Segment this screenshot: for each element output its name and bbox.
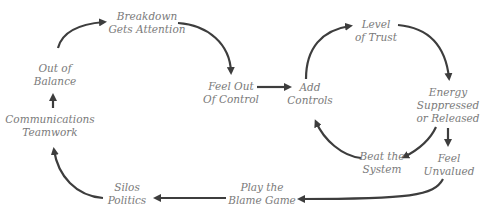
arrow-silos-politics-to-communications-teamwork [54, 150, 103, 198]
node-label-line: Politics [108, 194, 147, 207]
arrow-feel-unvalued-to-play-the-blame-game [300, 179, 443, 199]
node-out-of-balance: Out of Balance [34, 62, 76, 88]
node-play-the-blame-game: Play the Blame Game [228, 181, 296, 207]
node-label-line: Gets Attention [108, 23, 185, 36]
node-label-line: Out of [34, 62, 76, 75]
arrow-out-of-balance-to-breakdown [58, 22, 104, 48]
node-beat-the-system: Beat the System [360, 150, 405, 176]
arrow-beat-the-system-to-add-controls [316, 122, 361, 158]
arrow-add-controls-to-level-of-trust [306, 26, 350, 79]
feedback-loop-diagram: Breakdown Gets Attention Feel Out Of Con… [0, 0, 496, 215]
node-label-line: Unvalued [424, 165, 475, 178]
node-label-line: of Trust [355, 31, 397, 44]
node-add-controls: Add Controls [287, 81, 332, 107]
node-label-line: Breakdown [108, 10, 185, 23]
node-label-line: Suppressed [417, 99, 480, 112]
node-label-line: System [360, 163, 405, 176]
node-label-line: Blame Game [228, 194, 296, 207]
node-label-line: Balance [34, 75, 76, 88]
arrow-level-of-trust-to-energy [398, 25, 449, 78]
node-feel-out-of-control: Feel Out Of Control [203, 80, 259, 106]
node-label-line: Of Control [203, 93, 259, 106]
node-label-line: Feel [424, 152, 475, 165]
node-communications-teamwork: Communications Teamwork [5, 113, 94, 139]
arrow-breakdown-to-feel-out-of-control [178, 23, 231, 72]
node-energy-suppressed-or-released: Energy Suppressed or Released [417, 86, 480, 125]
node-silos-politics: Silos Politics [108, 181, 147, 207]
node-label-line: or Released [417, 112, 480, 125]
node-label-line: Controls [287, 94, 332, 107]
node-level-of-trust: Level of Trust [355, 18, 397, 44]
node-label-line: Feel Out [203, 80, 259, 93]
node-label-line: Silos [108, 181, 147, 194]
node-label-line: Teamwork [5, 126, 94, 139]
node-feel-unvalued: Feel Unvalued [424, 152, 475, 178]
node-label-line: Level [355, 18, 397, 31]
node-label-line: Beat the [360, 150, 405, 163]
node-label-line: Communications [5, 113, 94, 126]
node-breakdown-gets-attention: Breakdown Gets Attention [108, 10, 185, 36]
node-label-line: Add [287, 81, 332, 94]
node-label-line: Play the [228, 181, 296, 194]
node-label-line: Energy [417, 86, 480, 99]
